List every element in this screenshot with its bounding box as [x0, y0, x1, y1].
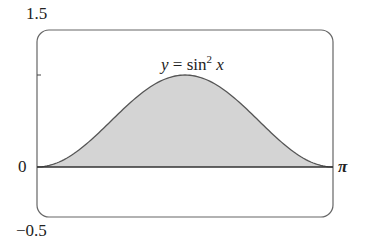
plot-area — [0, 0, 386, 238]
y-label-top: 1.5 — [26, 5, 47, 22]
eq-exponent: 2 — [206, 53, 212, 65]
y-label-bottom: −0.5 — [16, 222, 47, 238]
chart-title: y = sin2 x — [161, 51, 224, 73]
area-fill — [37, 75, 333, 167]
eq-x: x — [216, 55, 224, 74]
eq-y: y — [161, 55, 169, 74]
y-label-zero: 0 — [18, 158, 27, 175]
x-label-pi: π — [338, 158, 347, 175]
eq-sin: = sin — [169, 55, 207, 74]
